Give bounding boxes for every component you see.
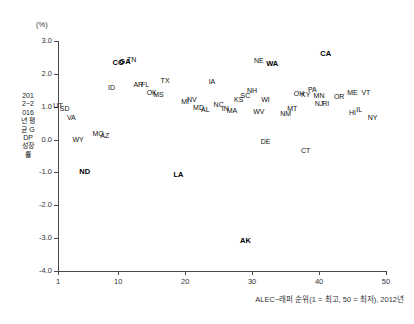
- y-tick-mark: [54, 74, 58, 75]
- x-tick-mark: [319, 271, 320, 275]
- data-point-label: AZ: [100, 131, 109, 138]
- y-tick-label-text: 2.0: [26, 70, 52, 78]
- data-point-label: WA: [266, 60, 278, 67]
- y-tick-mark: [54, 172, 58, 173]
- data-point-label: ME: [347, 88, 358, 95]
- x-tick-mark: [252, 271, 253, 275]
- data-point-label: DE: [261, 138, 271, 145]
- y-tick-label-text: -2.0: [26, 201, 52, 209]
- data-point-label: NY: [368, 114, 378, 121]
- x-tick-mark: [386, 271, 387, 275]
- x-tick-label: 40: [307, 277, 331, 286]
- y-tick-label: 1.0: [20, 103, 52, 111]
- data-point-label: CT: [301, 147, 310, 154]
- y-tick-label: -1.0: [20, 168, 52, 176]
- y-tick-mark: [54, 205, 58, 206]
- x-tick-label: 20: [173, 277, 197, 286]
- data-point-label: RI: [322, 100, 329, 107]
- data-point-label: SD: [60, 105, 70, 112]
- y-tick-label-text: -4.0: [26, 267, 52, 275]
- data-point-label: LA: [173, 171, 183, 178]
- data-point-label: HI: [349, 108, 356, 115]
- y-axis-unit-label: (%): [36, 20, 48, 29]
- plot-area: [58, 33, 387, 271]
- data-point-label: ID: [108, 84, 115, 91]
- data-point-label: TX: [161, 77, 170, 84]
- data-point-label: MS: [153, 91, 164, 98]
- y-tick-label-text: -1.0: [26, 168, 52, 176]
- x-tick-label: 30: [240, 277, 264, 286]
- x-axis-line: [58, 271, 387, 272]
- x-tick-label: 1: [46, 277, 70, 286]
- data-point-label: NE: [254, 57, 264, 64]
- data-point-label: OR: [334, 93, 345, 100]
- y-tick-label: 2.0: [20, 70, 52, 78]
- y-tick-label: 3.0: [20, 37, 52, 45]
- data-point-label: ND: [79, 167, 90, 174]
- data-point-label: NV: [187, 95, 197, 102]
- data-point-label: IA: [209, 78, 216, 85]
- data-point-label: FL: [141, 80, 149, 87]
- data-point-label: IL: [356, 106, 362, 113]
- y-tick-label: 0.0: [20, 136, 52, 144]
- x-tick-mark: [118, 271, 119, 275]
- x-tick-label: 50: [374, 277, 398, 286]
- data-point-label: VT: [361, 88, 370, 95]
- y-tick-label-text: -3.0: [26, 234, 52, 242]
- y-tick-label-text: 3.0: [26, 37, 52, 45]
- x-tick-label: 10: [106, 277, 130, 286]
- scatter-chart: (%) 2012~2016년 평균 GDP 성장률 3.02.01.00.0-1…: [0, 0, 414, 324]
- data-point-label: AL: [201, 106, 210, 113]
- y-tick-label: -3.0: [20, 234, 52, 242]
- data-point-label: NH: [247, 86, 257, 93]
- y-tick-label-text: 0.0: [26, 136, 52, 144]
- x-tick-mark: [58, 271, 59, 275]
- y-tick-label: -2.0: [20, 201, 52, 209]
- y-tick-mark: [54, 140, 58, 141]
- data-point-label: MA: [227, 107, 238, 114]
- y-axis-line: [58, 41, 59, 272]
- data-point-label: MN: [314, 92, 325, 99]
- data-point-label: VA: [67, 113, 76, 120]
- data-point-label: WY: [72, 135, 83, 142]
- data-point-label: MT: [287, 105, 297, 112]
- y-tick-label: -4.0: [20, 267, 52, 275]
- data-point-label: WI: [261, 96, 270, 103]
- data-point-label: CA: [320, 50, 331, 57]
- y-tick-mark: [54, 238, 58, 239]
- data-point-label: AK: [240, 236, 251, 243]
- x-axis-caption: ALEC−래퍼 순위(1 = 최고, 50 = 최저), 2012년: [0, 293, 404, 304]
- x-tick-mark: [185, 271, 186, 275]
- y-tick-label-text: 1.0: [26, 103, 52, 111]
- y-tick-mark: [54, 41, 58, 42]
- data-point-label: WV: [253, 107, 264, 114]
- data-point-label: TN: [127, 56, 136, 63]
